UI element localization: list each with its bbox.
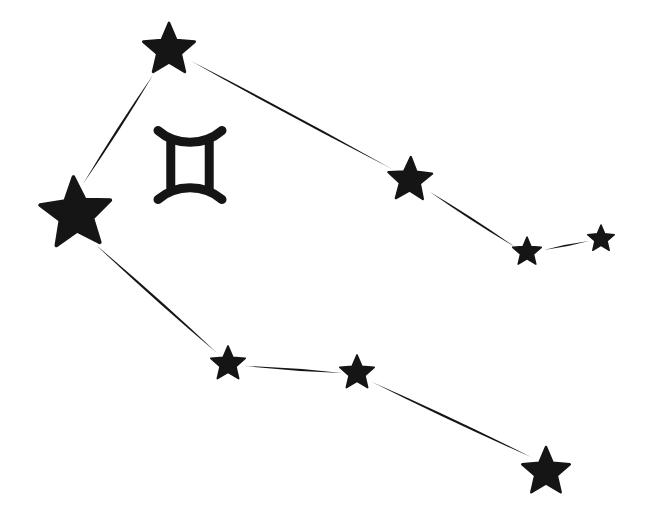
constellation-figure: Gemini Constellation Gemini CastorPollux… [0, 0, 652, 526]
background [0, 0, 652, 526]
constellation-canvas: Gemini CastorPolluxWasatMebsutaPropusAlh… [0, 0, 652, 526]
